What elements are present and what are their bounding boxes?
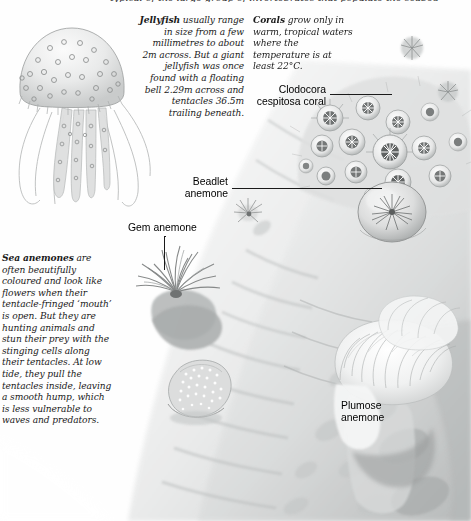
- callout-plumose-anemone: Plumose anemone: [341, 400, 411, 425]
- illustration-page: typical of the large group of invertebra…: [0, 0, 471, 521]
- callout-line-1: Clodocora: [248, 84, 326, 96]
- callout-line-1: Plumose: [341, 400, 411, 412]
- sea-anemones-text-block: Sea anemones are often beautifully colou…: [2, 252, 112, 427]
- leader-line-gem-vertical: [164, 236, 165, 270]
- jellyfish-body: usually range in size from a few millime…: [142, 15, 244, 118]
- leader-line-clodocora: [330, 94, 392, 95]
- clipped-top-text: typical of the large group of invertebra…: [110, 0, 460, 2]
- jellyfish-illustration: [19, 28, 150, 206]
- callout-line-1: Gem anemone: [128, 222, 218, 234]
- jellyfish-text-block: Jellyfish usually range in size from a f…: [136, 14, 244, 119]
- corals-lead: Corals: [253, 14, 285, 25]
- beadlet-anemone-illustration: [358, 182, 426, 242]
- jellyfish-lead: Jellyfish: [140, 14, 180, 25]
- callout-line-2: anemone: [341, 412, 411, 424]
- callout-clodocora-cespitosa-coral: Clodocora cespitosa coral: [248, 84, 326, 109]
- sea-anemones-body: are often beautifully coloured and look …: [2, 253, 112, 425]
- callout-line-2: anemone: [160, 188, 228, 200]
- leader-line-gem-elbow: [164, 236, 166, 237]
- corals-text-block: Corals grow only in warm, tropical water…: [253, 14, 353, 73]
- callout-line-1: Beadlet: [160, 176, 228, 188]
- callout-line-2: cespitosa coral: [248, 96, 326, 108]
- sea-anemones-lead: Sea anemones: [2, 252, 74, 263]
- callout-gem-anemone: Gem anemone: [128, 222, 218, 234]
- leader-line-beadlet: [232, 188, 382, 189]
- callout-beadlet-anemone: Beadlet anemone: [160, 176, 228, 201]
